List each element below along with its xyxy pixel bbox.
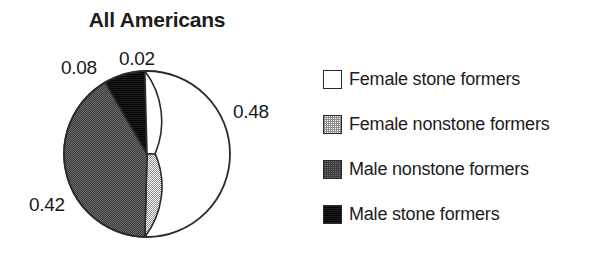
legend-swatch-male-nonstone <box>323 160 342 179</box>
legend-label-female-stone: Female stone formers <box>349 69 520 90</box>
legend-item-male-nonstone: Male nonstone formers <box>323 147 593 192</box>
legend-swatch-female-nonstone <box>323 115 342 134</box>
pie-chart-graphic <box>63 70 231 238</box>
legend-label-female-nonstone: Female nonstone formers <box>349 114 550 135</box>
legend-swatch-female-stone <box>323 70 342 89</box>
legend-label-male-stone: Male stone formers <box>349 204 499 225</box>
chart-title: All Americans <box>52 8 262 32</box>
pie-chart-figure: All Americans <box>0 0 604 253</box>
legend-item-female-stone: Female stone formers <box>323 57 593 102</box>
legend-swatch-male-stone <box>323 205 342 224</box>
chart-legend: Female stone formers Female nonstone for… <box>323 57 593 237</box>
data-label-male-stone: 0.08 <box>61 57 97 79</box>
legend-item-male-stone: Male stone formers <box>323 192 593 237</box>
data-label-female-nonstone: 0.48 <box>233 101 269 123</box>
data-label-male-nonstone: 0.42 <box>29 194 65 216</box>
pie-slice-female-stone <box>145 71 162 154</box>
legend-label-male-nonstone: Male nonstone formers <box>349 159 529 180</box>
legend-item-female-nonstone: Female nonstone formers <box>323 102 593 147</box>
pie-svg <box>63 70 231 238</box>
data-label-female-stone: 0.02 <box>119 48 155 70</box>
